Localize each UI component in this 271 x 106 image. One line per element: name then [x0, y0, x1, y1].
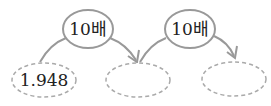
arc-right-2: [214, 36, 234, 56]
value-box-3: [202, 62, 266, 96]
arc-right-1: [110, 38, 136, 60]
step-label-2: 10배: [165, 19, 215, 39]
box-value-1: 1.948: [12, 70, 76, 90]
arc-left-1: [40, 38, 66, 62]
step-label-1: 10배: [63, 19, 113, 39]
arc-left-2: [140, 38, 166, 62]
multiply-diagram: 10배 10배 1.948: [0, 0, 271, 106]
diagram-shapes: [0, 0, 271, 106]
value-box-2: [106, 63, 170, 97]
